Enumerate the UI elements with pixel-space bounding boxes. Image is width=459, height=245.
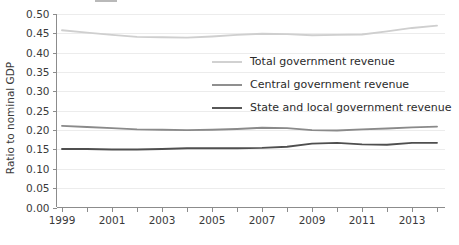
- x-tick-label: 2007: [249, 214, 276, 226]
- y-tick-label: 0.00: [26, 202, 49, 214]
- x-tick-label: 2003: [149, 214, 176, 226]
- y-tick-label: 0.15: [26, 143, 49, 155]
- legend-label-2: State and local government revenue: [250, 101, 452, 114]
- x-tick-label: 2013: [399, 214, 426, 226]
- chart-background: [0, 0, 459, 245]
- cropped-title-remnant: [95, 0, 117, 2]
- legend-label-1: Central government revenue: [250, 78, 409, 91]
- y-tick-label: 0.50: [26, 8, 49, 20]
- y-tick-label: 0.05: [26, 182, 49, 194]
- x-tick-label: 2009: [299, 214, 326, 226]
- x-tick-label: 2005: [199, 214, 226, 226]
- y-tick-label: 0.30: [26, 85, 49, 97]
- y-axis-tick-labels: 0.000.050.100.150.200.250.300.350.400.45…: [26, 8, 49, 214]
- y-tick-label: 0.10: [26, 163, 49, 175]
- y-tick-label: 0.25: [26, 105, 49, 117]
- x-tick-label: 2011: [349, 214, 376, 226]
- x-tick-label: 2001: [99, 214, 126, 226]
- x-tick-label: 1999: [49, 214, 76, 226]
- y-tick-label: 0.40: [26, 47, 49, 59]
- y-tick-label: 0.45: [26, 27, 49, 39]
- y-tick-label: 0.35: [26, 66, 49, 78]
- y-axis-title: Ratio to nominal GDP: [4, 62, 16, 174]
- line-chart: 0.000.050.100.150.200.250.300.350.400.45…: [0, 0, 459, 245]
- legend-label-0: Total government revenue: [249, 55, 395, 68]
- y-tick-label: 0.20: [26, 124, 49, 136]
- chart-container: 0.000.050.100.150.200.250.300.350.400.45…: [0, 0, 459, 245]
